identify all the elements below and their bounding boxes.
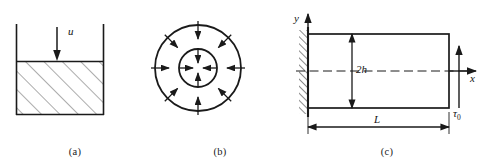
panel-c: y x 2h L τ0 (c) bbox=[290, 0, 484, 161]
shear-load-label: τ0 bbox=[453, 107, 461, 122]
load-arrow-head bbox=[53, 50, 61, 61]
x-axis-label: x bbox=[470, 72, 475, 84]
y-axis-label: y bbox=[294, 12, 299, 24]
panel-b: (b) bbox=[150, 0, 290, 161]
fixed-support-hatching bbox=[299, 30, 308, 114]
panel-a: u (a) bbox=[0, 0, 150, 161]
fluid-region bbox=[16, 62, 104, 115]
caption-b: (b) bbox=[150, 146, 290, 157]
height-label: 2h bbox=[356, 63, 367, 75]
shear-subscript: 0 bbox=[457, 113, 461, 122]
length-label: L bbox=[374, 113, 380, 125]
load-label: u bbox=[68, 25, 74, 37]
panel-a-drawing bbox=[0, 0, 150, 161]
caption-a: (a) bbox=[0, 146, 150, 157]
outer-pressure-arrows bbox=[151, 21, 245, 115]
panel-b-drawing bbox=[150, 0, 290, 161]
caption-c: (c) bbox=[290, 146, 484, 157]
panel-c-drawing bbox=[290, 0, 484, 161]
inner-pressure-arrows bbox=[180, 50, 216, 86]
figure-container: u (a) bbox=[0, 0, 484, 161]
